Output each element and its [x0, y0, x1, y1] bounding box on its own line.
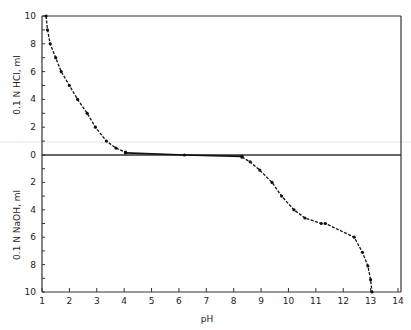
hcl-curve-point — [105, 140, 108, 143]
x-tick-label: 14 — [392, 296, 404, 306]
y-tick-label-lower: 2 — [30, 177, 36, 187]
hcl-curve-point — [54, 56, 57, 59]
hcl-curve-point — [45, 14, 48, 17]
y-tick-label-upper: 8 — [30, 39, 36, 49]
plot-frame — [42, 16, 401, 292]
x-tick-label: 2 — [67, 296, 73, 306]
x-tick-label: 13 — [365, 296, 376, 306]
axis-ticks: 12345678910111213140246810246810 — [25, 11, 404, 306]
naoh-curve-point — [353, 236, 356, 239]
y-tick-label-lower: 6 — [30, 232, 36, 242]
x-tick-label: 4 — [121, 296, 127, 306]
naoh-curve-point — [240, 155, 243, 158]
hcl-curve-line — [46, 16, 125, 152]
y-tick-label-upper: 6 — [30, 67, 36, 77]
x-tick-label: 5 — [149, 296, 155, 306]
hcl-curve-point — [76, 98, 79, 101]
naoh-curve-point — [324, 222, 327, 225]
x-tick-label: 11 — [310, 296, 321, 306]
x-tick-label: 12 — [338, 296, 349, 306]
x-tick-label: 6 — [176, 296, 182, 306]
titration-chart: 12345678910111213140246810246810 pH 0.1 … — [0, 0, 411, 330]
naoh-curve-point — [303, 216, 306, 219]
naoh-curve-point — [270, 181, 273, 184]
y-tick-label-upper: 10 — [25, 11, 37, 21]
x-tick-label: 3 — [94, 296, 100, 306]
y-tick-label-upper: 2 — [30, 122, 36, 132]
naoh-curve-point — [361, 251, 364, 254]
y-tick-label-upper: 4 — [30, 94, 36, 104]
hcl-curve-point — [60, 70, 63, 73]
data-curves — [45, 14, 374, 293]
x-axis-title: pH — [201, 314, 213, 324]
plateau-point — [124, 151, 127, 154]
naoh-curve-point — [258, 168, 261, 171]
hcl-curve-point — [114, 146, 117, 149]
plateau-point — [183, 153, 186, 156]
naoh-curve-point — [249, 160, 252, 163]
x-tick-label: 9 — [258, 296, 264, 306]
x-tick-label: 8 — [231, 296, 237, 306]
naoh-curve-line — [242, 157, 372, 292]
y-tick-label-lower: 10 — [25, 287, 37, 297]
y-tick-label-lower: 4 — [30, 205, 36, 215]
y-tick-label-upper: 0 — [30, 150, 36, 160]
hcl-curve-point — [49, 42, 52, 45]
naoh-curve-point — [370, 290, 373, 293]
x-tick-label: 1 — [39, 296, 45, 306]
hcl-curve-point — [94, 126, 97, 129]
naoh-curve-point — [369, 278, 372, 281]
hcl-curve-point — [68, 84, 71, 87]
hcl-curve-point — [46, 28, 49, 31]
naoh-curve-point — [280, 195, 283, 198]
x-tick-label: 7 — [203, 296, 209, 306]
y-axis-title-upper: 0.1 N HCl, ml — [12, 55, 22, 114]
naoh-curve-point — [366, 264, 369, 267]
y-axis-title-lower: 0.1 N NaOH, ml — [12, 190, 22, 260]
naoh-curve-point — [292, 208, 295, 211]
hcl-curve-point — [86, 112, 89, 115]
x-tick-label: 10 — [283, 296, 295, 306]
naoh-curve-point — [320, 222, 323, 225]
y-tick-label-lower: 8 — [30, 260, 36, 270]
